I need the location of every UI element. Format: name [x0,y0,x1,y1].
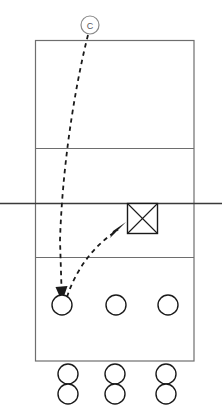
on-court-player-3 [158,295,178,315]
waiting-player-2-1 [58,384,78,404]
waiting-row-1 [58,364,176,384]
waiting-row-2 [58,384,176,404]
court-svg-canvas: C [0,0,222,419]
waiting-player-1-1 [58,364,78,384]
waiting-player-1-2 [105,364,125,384]
target-box [128,204,158,234]
coach-label: C [87,21,94,31]
waiting-player-2-3 [156,384,176,404]
on-court-player-1 [52,295,72,315]
coach-marker: C [81,16,99,34]
waiting-player-2-2 [105,384,125,404]
waiting-player-1-3 [156,364,176,384]
volleyball-drill-diagram: C [0,0,222,419]
on-court-player-2 [106,295,126,315]
